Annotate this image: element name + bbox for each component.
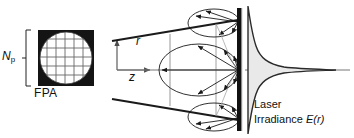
- detector-plane-group: [237, 8, 242, 131]
- axis-r-label: r: [136, 34, 140, 48]
- irradiance-argument: (r): [313, 113, 324, 125]
- irradiance-word: Irradiance: [254, 113, 306, 125]
- fpa-label: FPA: [34, 87, 57, 99]
- np-label: Np: [2, 50, 15, 64]
- laser-label-line1: Laser: [254, 99, 282, 110]
- optical-diagram-figure: Np FPA r z Laser Irradiance E(r): [0, 0, 354, 138]
- laser-label-line2: Irradiance E(r): [254, 114, 324, 125]
- axis-z-label: z: [129, 70, 135, 84]
- detector-plane-edge: [241, 8, 242, 131]
- detector-plane-bar: [237, 8, 241, 131]
- np-subscript: p: [11, 55, 15, 64]
